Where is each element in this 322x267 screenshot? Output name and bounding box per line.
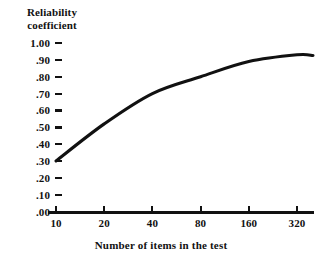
reliability-curve-figure: Reliability coefficient 1.00.90.80.70.60… [0, 0, 322, 267]
x-axis-title: Number of items in the test [0, 239, 322, 251]
reliability-curve-line [56, 54, 313, 160]
plot-area [0, 0, 322, 267]
